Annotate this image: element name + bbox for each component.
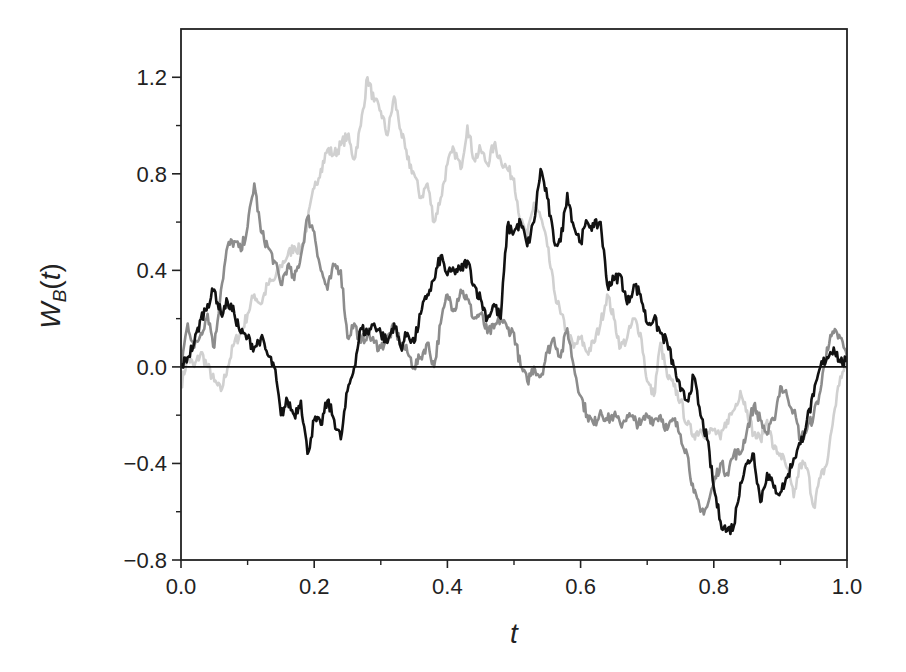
x-axis-ticks: 0.00.20.40.60.81.0 [166, 560, 863, 599]
y-axis-title-sub: B [49, 289, 70, 302]
x-tick-label: 0.0 [166, 574, 197, 599]
y-tick-label: 0.4 [136, 258, 167, 283]
y-axis-title-main: W [35, 300, 66, 329]
brownian-bridge-chart: 0.00.20.40.60.81.0 1.20.80.40.0−0.4−0.8 … [0, 0, 906, 672]
series-line-bridge-black [181, 169, 847, 534]
x-tick-label: 0.4 [432, 574, 463, 599]
y-tick-label: 0.8 [136, 162, 167, 187]
y-axis-title: WB(t) [35, 263, 70, 329]
x-axis-title: t [510, 618, 519, 649]
y-axis-title-arg: (t) [35, 263, 66, 289]
series-line-bridge-light-gray [181, 77, 847, 508]
x-tick-label: 0.2 [299, 574, 330, 599]
x-tick-label: 1.0 [832, 574, 863, 599]
x-tick-label: 0.6 [565, 574, 596, 599]
plot-frame [181, 29, 847, 560]
y-tick-label: −0.8 [124, 548, 167, 573]
series-layer [181, 77, 847, 534]
y-tick-label: 0.0 [136, 355, 167, 380]
y-axis-ticks: 1.20.80.40.0−0.4−0.8 [124, 65, 181, 573]
y-tick-label: 1.2 [136, 65, 167, 90]
x-tick-label: 0.8 [699, 574, 730, 599]
y-tick-label: −0.4 [124, 451, 167, 476]
